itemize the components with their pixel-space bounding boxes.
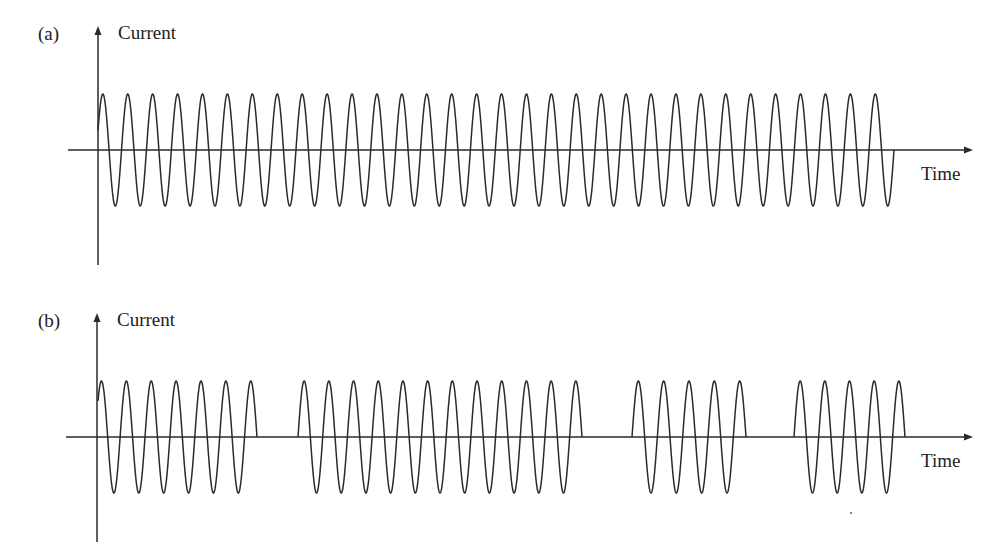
y-axis-arrow-icon-b (94, 313, 101, 322)
x-axis-arrow-icon-b (964, 434, 973, 441)
stray-dot (850, 512, 852, 514)
panel-a: (a) Current Time (38, 22, 973, 265)
panel-label-a: (a) (38, 23, 59, 45)
panel-label-b: (b) (38, 310, 60, 332)
y-axis-label-a: Current (118, 22, 177, 43)
y-axis-arrow-icon-a (95, 26, 102, 35)
panel-b: (b) Current Time (38, 309, 973, 542)
figure-canvas: (a) Current Time (b) Current Time (0, 0, 997, 542)
y-axis-label-b: Current (117, 309, 176, 330)
x-axis-label-b: Time (921, 450, 960, 471)
x-axis-arrow-icon-a (964, 147, 973, 154)
x-axis-label-a: Time (921, 163, 960, 184)
